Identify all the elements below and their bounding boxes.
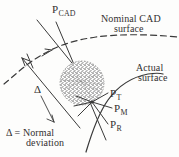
normal-deviation-diagram: PCAD Nominal CAD surface Actual surface … — [0, 0, 179, 157]
label-p-t: PT — [110, 88, 121, 102]
label-actual-line2: surface — [136, 73, 168, 84]
leader-line-pm — [92, 102, 112, 108]
label-p-cad-subscript: CAD — [58, 9, 75, 18]
tangent-line-at-pcad — [37, 20, 76, 68]
label-p-cad: PCAD — [52, 4, 76, 18]
label-p-r-subscript: R — [116, 124, 122, 133]
label-actual-surface: Actual surface — [136, 63, 168, 83]
label-p-m-subscript: M — [120, 108, 127, 117]
delta-leader-arrowhead — [47, 115, 54, 122]
label-nominal-cad-surface: Nominal CAD surface — [101, 14, 161, 34]
deviation-arrowhead-lower — [42, 49, 52, 56]
label-nominal-line2: surface — [101, 24, 161, 35]
delta-leader-line — [41, 96, 54, 122]
label-delta-symbol: Δ — [34, 84, 41, 96]
label-p-t-subscript: T — [116, 93, 121, 102]
label-p-r: PR — [110, 119, 122, 133]
label-delta-definition-line2: deviation — [6, 138, 64, 149]
label-delta-definition: Δ = Normal deviation — [6, 128, 64, 148]
label-p-m: PM — [114, 103, 128, 117]
